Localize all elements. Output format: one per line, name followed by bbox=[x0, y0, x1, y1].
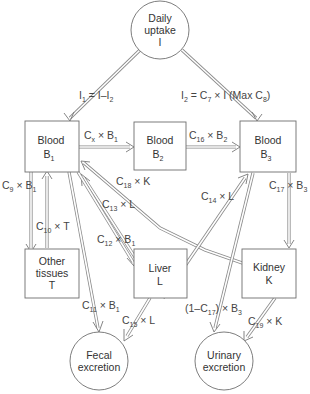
label-c16: C16 × B2 bbox=[189, 129, 227, 143]
node-fecal-excretion: Fecal excretion bbox=[70, 332, 128, 390]
compartment-diagram: Daily uptake I Blood B1 Blood B2 Blood B… bbox=[0, 0, 310, 394]
node-subscript: 1 bbox=[51, 155, 55, 162]
node-other-tissues: Other tissues T bbox=[25, 249, 79, 298]
node-label: excretion bbox=[203, 361, 246, 373]
label-1-minus-c17: (1–C17) × B3 bbox=[185, 302, 242, 316]
node-label: Liver bbox=[149, 262, 172, 274]
node-label: uptake bbox=[144, 24, 176, 36]
node-liver: Liver L bbox=[134, 249, 187, 298]
node-symbol: K bbox=[265, 274, 272, 286]
node-daily-uptake: Daily uptake I bbox=[131, 1, 189, 59]
node-kidney: Kidney K bbox=[242, 249, 296, 298]
node-symbol: I bbox=[159, 36, 162, 48]
label-i1: I1 = I–I2 bbox=[79, 89, 113, 103]
node-label: Kidney bbox=[253, 261, 286, 273]
node-blood-b3: Blood B3 bbox=[240, 121, 296, 172]
label-c17: C17 × B3 bbox=[269, 179, 307, 193]
node-label: Fecal bbox=[86, 349, 112, 361]
label-i2: I2 = C7 × I (Max C8) bbox=[181, 89, 270, 103]
label-c15: C15 × L bbox=[122, 314, 155, 328]
arrow-blood1-to-blood2 bbox=[79, 142, 134, 152]
label-c9: C9 × B1 bbox=[2, 179, 36, 193]
node-label: Other bbox=[39, 255, 66, 267]
node-urinary-excretion: Urinary excretion bbox=[195, 332, 253, 390]
arrow-intake-to-blood1 bbox=[64, 50, 140, 121]
arrow-intake-to-blood3 bbox=[182, 50, 262, 121]
arrow-tissues-to-blood1 bbox=[42, 171, 52, 248]
node-label: Blood bbox=[255, 134, 282, 146]
label-c10: C10 × T bbox=[36, 220, 70, 234]
label-c11: C11 × B1 bbox=[82, 299, 120, 313]
label-c12: C12 × B1 bbox=[97, 233, 135, 247]
node-symbol: B bbox=[44, 148, 51, 160]
label-c19: C19 × K bbox=[248, 315, 282, 329]
node-label: tissues bbox=[36, 267, 69, 279]
node-blood-b2: Blood B2 bbox=[134, 122, 186, 170]
node-symbol: B bbox=[153, 148, 160, 160]
node-blood-b1: Blood B1 bbox=[25, 121, 79, 172]
label-c18: C18 × K bbox=[116, 175, 150, 189]
node-label: excretion bbox=[78, 361, 121, 373]
label-c14: C14 × L bbox=[201, 190, 234, 204]
node-label: Urinary bbox=[207, 349, 242, 361]
node-subscript: 3 bbox=[268, 155, 272, 162]
label-cx: Cx × B1 bbox=[84, 129, 118, 143]
label-c13: C13 × L bbox=[102, 198, 135, 212]
node-symbol: T bbox=[49, 279, 56, 291]
node-label: Blood bbox=[147, 134, 174, 146]
node-subscript: 2 bbox=[160, 155, 164, 162]
arrow-blood2-to-blood3 bbox=[186, 142, 240, 152]
node-label: Blood bbox=[38, 134, 65, 146]
node-label: Daily bbox=[148, 12, 172, 24]
node-symbol: L bbox=[157, 275, 163, 287]
node-symbol: B bbox=[261, 148, 268, 160]
